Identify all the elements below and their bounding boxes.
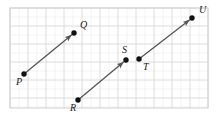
point-t [136,56,141,61]
point-label-r: R [69,102,76,113]
geometry-figure: PQRSTU [0,0,216,120]
point-label-p: P [15,76,22,87]
point-u [189,15,194,20]
point-label-q: Q [80,19,88,30]
figure-background [0,0,216,120]
point-label-u: U [199,4,207,15]
point-q [71,30,76,35]
point-label-s: S [122,44,127,55]
point-r [75,97,80,102]
point-p [21,71,26,76]
figure-canvas: PQRSTU [0,0,216,120]
point-s [123,57,128,62]
